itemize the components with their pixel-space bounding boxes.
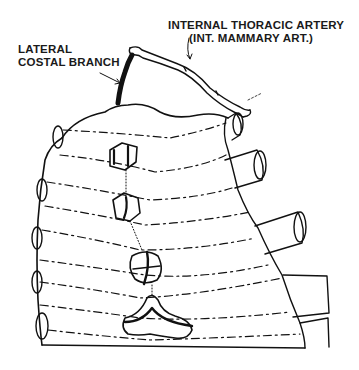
chest-wall-outline <box>37 104 305 348</box>
intercostal-lines <box>40 123 300 340</box>
lateral-costal-branch <box>118 55 132 103</box>
right-rib-ends <box>224 113 329 348</box>
fascia-dots <box>126 170 152 296</box>
sternum-segments <box>110 143 161 284</box>
leader-arrows <box>100 38 192 84</box>
ribcage-illustration <box>0 0 359 370</box>
